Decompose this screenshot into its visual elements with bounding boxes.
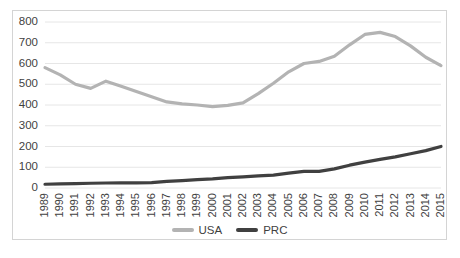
x-tick-2005: 2005 (283, 193, 294, 217)
x-tick-1990: 1990 (54, 193, 65, 217)
legend-label: USA (199, 224, 223, 236)
y-tick-800: 800 (6, 15, 38, 27)
x-tick-2008: 2008 (328, 193, 339, 217)
x-tick-1989: 1989 (39, 193, 50, 217)
x-tick-2004: 2004 (267, 193, 278, 217)
chart-legend: USAPRC (0, 224, 459, 236)
x-tick-2012: 2012 (389, 193, 400, 217)
legend-item-usa[interactable]: USA (172, 224, 223, 236)
x-tick-2014: 2014 (420, 193, 431, 217)
x-tick-2001: 2001 (222, 193, 233, 217)
legend-swatch-usa (172, 228, 194, 232)
y-tick-200: 200 (6, 140, 38, 152)
y-tick-300: 300 (6, 119, 38, 131)
y-tick-0: 0 (6, 181, 38, 193)
legend-item-prc[interactable]: PRC (236, 224, 287, 236)
x-tick-1992: 1992 (85, 193, 96, 217)
x-tick-1991: 1991 (69, 193, 80, 217)
x-tick-2006: 2006 (298, 193, 309, 217)
x-tick-2009: 2009 (344, 193, 355, 217)
line-chart: 0100200300400500600700800 19891990199119… (0, 0, 460, 258)
x-tick-1995: 1995 (130, 193, 141, 217)
x-tick-1994: 1994 (115, 193, 126, 217)
x-tick-2002: 2002 (237, 193, 248, 217)
x-tick-2011: 2011 (374, 193, 385, 217)
y-tick-100: 100 (6, 160, 38, 172)
x-tick-1996: 1996 (146, 193, 157, 217)
x-tick-1998: 1998 (176, 193, 187, 217)
y-tick-700: 700 (6, 36, 38, 48)
y-tick-600: 600 (6, 57, 38, 69)
x-tick-2007: 2007 (313, 193, 324, 217)
y-tick-400: 400 (6, 98, 38, 110)
x-tick-2013: 2013 (405, 193, 416, 217)
x-tick-1999: 1999 (191, 193, 202, 217)
x-tick-2003: 2003 (252, 193, 263, 217)
legend-swatch-prc (236, 228, 258, 232)
x-tick-1993: 1993 (100, 193, 111, 217)
x-tick-2000: 2000 (207, 193, 218, 217)
legend-label: PRC (263, 224, 287, 236)
x-tick-1997: 1997 (161, 193, 172, 217)
x-tick-2010: 2010 (359, 193, 370, 217)
x-tick-2015: 2015 (435, 193, 446, 217)
y-tick-500: 500 (6, 77, 38, 89)
